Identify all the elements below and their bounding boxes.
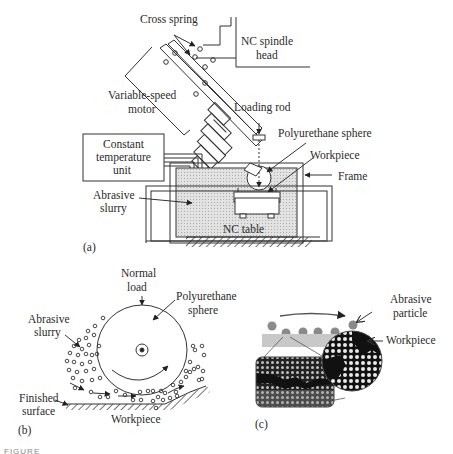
label-frame: Frame bbox=[338, 170, 367, 183]
label-abrasive-slurry-a-line1: Abrasive bbox=[93, 189, 135, 202]
label-workpiece-a: Workpiece bbox=[310, 149, 360, 162]
panel-tag-a: (a) bbox=[83, 241, 96, 253]
label-workpiece-b: Workpiece bbox=[111, 413, 161, 426]
label-workpiece-c: Workpiece bbox=[386, 334, 436, 347]
label-constant-temperature-line2: temperature bbox=[96, 151, 151, 164]
label-finished-surface-line1: Finished bbox=[19, 392, 59, 405]
label-variable-speed-motor-line2: motor bbox=[128, 103, 155, 116]
label-abrasive-slurry-a-line2: slurry bbox=[100, 202, 127, 215]
figure-caption-fragment: FIGURE bbox=[4, 447, 40, 454]
motion-arrow bbox=[280, 314, 345, 317]
base-hatch bbox=[186, 237, 312, 247]
panel-tag-c: (c) bbox=[255, 418, 268, 430]
label-abrasive-particle-line1: Abrasive bbox=[390, 293, 432, 306]
label-polyurethane-sphere: Polyurethane sphere bbox=[278, 127, 372, 140]
label-nc-spindle-head-line2: head bbox=[256, 49, 278, 62]
workpiece-surface-hatch bbox=[66, 386, 210, 410]
panel-tag-b: (b) bbox=[18, 424, 31, 436]
label-polyurethane-sphere-b-line1: Polyurethane bbox=[176, 290, 237, 303]
label-abrasive-slurry-b-line2: slurry bbox=[34, 326, 61, 339]
label-constant-temperature-line1: Constant bbox=[103, 138, 144, 151]
workpiece-block bbox=[235, 198, 279, 214]
panel-c-atomic-removal bbox=[256, 312, 383, 407]
label-abrasive-slurry-b-line1: Abrasive bbox=[28, 313, 70, 326]
label-polyurethane-sphere-b-line2: sphere bbox=[188, 304, 218, 317]
label-nc-table: NC table bbox=[223, 223, 264, 236]
label-normal-load-line1: Normal bbox=[121, 267, 156, 280]
label-loading-rod: Loading rod bbox=[234, 101, 291, 114]
label-finished-surface-line2: surface bbox=[22, 405, 55, 418]
label-variable-speed-motor-line1: Variable-speed bbox=[108, 89, 176, 102]
label-nc-spindle-head-line1: NC spindle bbox=[241, 35, 293, 48]
label-normal-load-line2: load bbox=[127, 281, 147, 294]
label-cross-spring: Cross spring bbox=[140, 13, 198, 26]
label-constant-temperature-line3: unit bbox=[113, 164, 131, 177]
label-abrasive-particle-line2: particle bbox=[393, 307, 427, 320]
rotation-arrow bbox=[112, 366, 168, 380]
